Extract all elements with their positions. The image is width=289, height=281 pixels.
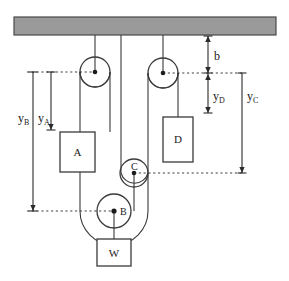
label-b: b: [214, 49, 220, 63]
diagram-canvas: A D W: [0, 0, 289, 281]
label-y-b: yB: [18, 111, 29, 127]
label-y-b-sub: B: [24, 118, 29, 127]
arrowhead-y-c-down: [239, 167, 244, 173]
pulley-b-label: B: [120, 206, 127, 217]
dimension-labels: yB yA b yD yC: [18, 49, 258, 127]
pulley-labels: C B: [120, 161, 138, 217]
label-y-c: yC: [247, 89, 258, 105]
arrowhead-y-d-up: [205, 74, 211, 80]
arrowhead-y-d-down: [205, 107, 211, 113]
label-y-a: yA: [38, 111, 50, 127]
arrowhead-y-b-down: [30, 205, 35, 211]
label-y-a-sub: A: [44, 118, 50, 127]
arrowhead-b-down: [205, 67, 211, 73]
block-d-label: D: [174, 133, 182, 145]
label-y-c-sub: C: [253, 96, 258, 105]
label-y-d-sub: D: [219, 96, 225, 105]
dimension-arrowheads: [30, 36, 244, 211]
arrowhead-b-up: [205, 36, 211, 42]
pulley-c-label: C: [131, 161, 138, 172]
ceiling-beam: [14, 17, 276, 35]
block-a-label: A: [74, 146, 82, 158]
pulley-diagram: A D W: [0, 0, 289, 281]
label-y-d: yD: [213, 89, 225, 105]
block-w-label: W: [109, 247, 120, 259]
